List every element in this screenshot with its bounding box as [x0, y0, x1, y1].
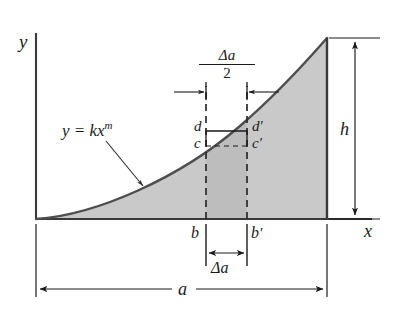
equation-leader-line	[106, 141, 143, 186]
y-axis-label: y	[19, 32, 27, 51]
base-label-b-prime-base: b	[251, 224, 259, 241]
delta-a-label: Δa	[211, 260, 228, 276]
curve-equation-base: y = kx	[62, 121, 105, 140]
prime-mark-c: ′	[259, 135, 262, 151]
curve-equation-label: y = kxm	[62, 120, 113, 139]
element-label-c: c	[194, 136, 201, 151]
element-label-d: d	[194, 119, 202, 134]
curve-equation-exponent: m	[105, 119, 113, 131]
half-delta-a-numerator: Δa	[199, 48, 255, 63]
element-label-d-prime: d′	[252, 119, 263, 134]
total-width-label: a	[178, 280, 187, 298]
half-delta-a-label: Δa 2	[199, 48, 255, 81]
half-delta-a-denominator: 2	[199, 66, 255, 81]
height-dimension	[329, 38, 380, 219]
height-dimension-label: h	[340, 120, 349, 138]
prime-mark-d: ′	[260, 118, 263, 134]
base-label-b: b	[191, 225, 199, 241]
prime-mark-b: ′	[259, 224, 262, 241]
element-label-c-prime-base: c	[252, 135, 259, 151]
x-axis-label: x	[364, 222, 372, 240]
element-label-c-prime: c′	[252, 136, 262, 151]
base-label-b-prime: b′	[251, 225, 262, 241]
element-label-d-prime-base: d	[252, 118, 260, 134]
half-delta-a-dimension	[174, 82, 279, 100]
